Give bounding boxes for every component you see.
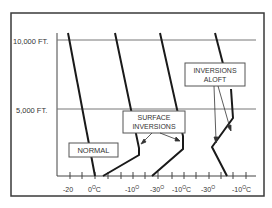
x-label-minus10c-b: -10OC [232, 184, 251, 193]
x-label-minus20: -20 [63, 186, 73, 193]
x-axis-labels: -20 0OC -10O -30O -10OC -30O -10OC [63, 184, 251, 193]
y-label-10000: 10,000 FT. [13, 37, 48, 46]
surface-inversions-arrows [141, 133, 180, 144]
normal-callout-label: NORMAL [77, 146, 109, 155]
y-label-5000: 5,000 FT. [16, 106, 47, 115]
x-label-minus30a: -30O [150, 184, 164, 193]
x-label-0c: 0OC [88, 184, 101, 193]
x-label-minus10c-a: -10OC [172, 184, 191, 193]
diagram-canvas: 10,000 FT. 5,000 FT. -20 0OC -10O -30O -… [0, 0, 272, 208]
x-label-minus30b: -30O [201, 184, 215, 193]
x-label-minus10a: -10O [125, 184, 139, 193]
inversions-aloft-label-line1: INVERSIONS [193, 67, 237, 74]
inversions-aloft-arrows [214, 86, 231, 143]
profile-surface-inversion-2 [152, 33, 183, 176]
surface-inversions-label-line2: INVERSIONS [132, 123, 176, 130]
surface-inversions-label-line1: SURFACE [137, 114, 170, 121]
inversions-aloft-label-line2: ALOFT [204, 76, 227, 83]
